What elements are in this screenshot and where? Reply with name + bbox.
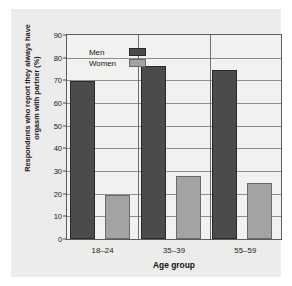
plot-area: 0102030405060708090 18–2435–3955–59 Men … xyxy=(66,34,282,240)
group-separator xyxy=(210,35,211,239)
y-axis-tick-mark xyxy=(63,193,67,194)
y-axis-title: Respondents who report they always have … xyxy=(23,14,42,182)
bar-women-3 xyxy=(247,183,272,239)
gridline xyxy=(67,171,281,172)
legend-swatch-men-icon xyxy=(129,48,146,56)
x-axis-tick-label: 18–24 xyxy=(92,246,114,255)
chart-figure: Respondents who report they always have … xyxy=(0,0,292,286)
gridline xyxy=(67,126,281,127)
bar-men-1 xyxy=(70,81,95,239)
chart-panel: Respondents who report they always have … xyxy=(11,9,281,277)
legend-item-women: Women xyxy=(89,58,146,68)
y-axis-tick-mark xyxy=(63,80,67,81)
gridline xyxy=(67,148,281,149)
legend-item-men: Men xyxy=(89,47,146,57)
bar-men-2 xyxy=(141,66,166,239)
y-axis-tick-mark xyxy=(63,148,67,149)
legend-label-women: Women xyxy=(89,59,129,68)
x-axis-tick-label: 55–59 xyxy=(234,246,256,255)
x-axis-tick-label: 35–39 xyxy=(163,246,185,255)
y-axis-tick-mark xyxy=(63,103,67,104)
bar-men-3 xyxy=(212,70,237,239)
y-axis-tick-mark xyxy=(63,171,67,172)
y-axis-tick-mark xyxy=(63,57,67,58)
y-axis-tick-mark xyxy=(63,35,67,36)
bar-women-1 xyxy=(105,195,130,239)
gridline xyxy=(67,80,281,81)
bar-women-2 xyxy=(176,176,201,239)
y-axis-tick-mark xyxy=(63,125,67,126)
chart-legend: Men Women xyxy=(89,47,146,68)
legend-label-men: Men xyxy=(89,48,129,57)
y-axis-tick-mark xyxy=(63,216,67,217)
y-axis-tick-mark xyxy=(63,239,67,240)
y-axis-title-container: Respondents who report they always have … xyxy=(21,13,43,183)
x-axis-title: Age group xyxy=(67,260,281,270)
gridline xyxy=(67,103,281,104)
legend-swatch-women-icon xyxy=(129,59,146,67)
